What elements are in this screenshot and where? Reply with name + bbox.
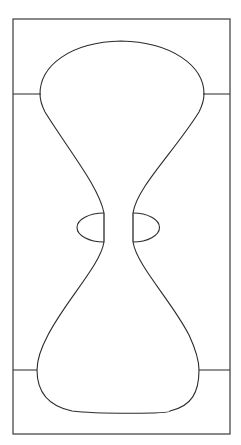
outer-rectangle-frame bbox=[13, 19, 230, 434]
right-waist-ellipse bbox=[133, 213, 160, 242]
left-waist-ellipse bbox=[77, 213, 104, 242]
hourglass-drawing bbox=[0, 0, 241, 445]
figure-canvas: Hourglass outline drawing bbox=[0, 0, 241, 445]
upper-bulb-outline bbox=[40, 41, 204, 213]
lower-bulb-outline bbox=[37, 242, 199, 413]
